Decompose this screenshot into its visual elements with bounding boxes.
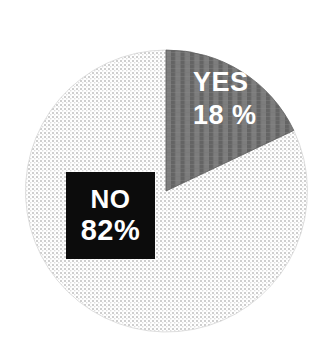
pie-chart: YES 18 % NO 82% — [0, 0, 331, 360]
slice-label-no-name: NO — [91, 185, 131, 214]
pie-chart-canvas — [0, 0, 331, 360]
slice-label-no: NO 82% — [66, 172, 155, 259]
slice-label-no-value: 82% — [81, 214, 141, 247]
